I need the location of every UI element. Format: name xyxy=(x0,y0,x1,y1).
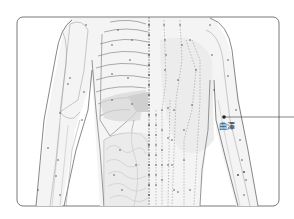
anatomy-illustration xyxy=(0,0,294,219)
acupuncture-chart-svg xyxy=(0,0,294,219)
acupoint-label: 曲澤 xyxy=(219,123,235,131)
